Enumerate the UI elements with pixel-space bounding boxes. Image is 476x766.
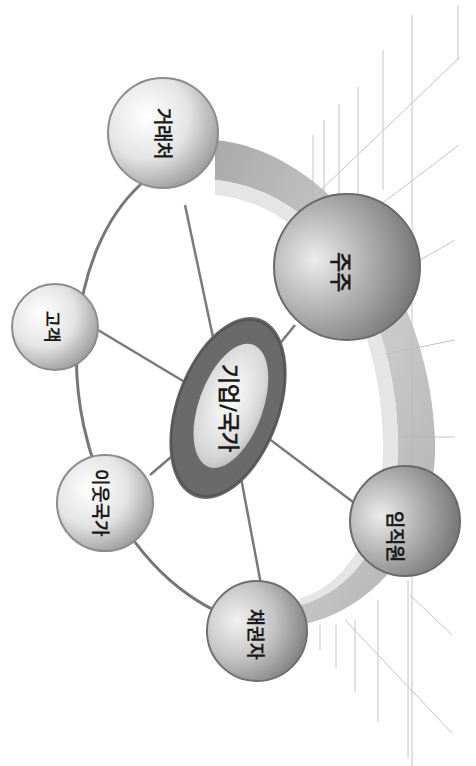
node-customer-label: 고객 xyxy=(42,311,62,343)
node-partner[interactable]: 거래처 xyxy=(108,78,218,188)
diagram-stage: 기업/국가 거래처 고객 이웃국가 채권자 임직원 주주 xyxy=(0,0,476,766)
node-partner-label: 거래처 xyxy=(152,108,174,159)
node-shareholder-label: 주주 xyxy=(328,252,353,292)
node-creditor-label: 채권자 xyxy=(245,609,266,660)
node-neighbor-country[interactable]: 이웃국가 xyxy=(57,455,153,551)
node-creditor[interactable]: 채권자 xyxy=(207,581,307,681)
node-shareholder[interactable]: 주주 xyxy=(274,194,420,340)
stakeholder-diagram: 기업/국가 거래처 고객 이웃국가 채권자 임직원 주주 xyxy=(0,0,476,766)
center-hub-label: 기업/국가 xyxy=(216,364,241,452)
node-employee-label: 임직원 xyxy=(384,511,406,562)
node-customer[interactable]: 고객 xyxy=(12,284,98,370)
node-neighbor-country-label: 이웃국가 xyxy=(90,469,111,537)
node-employee[interactable]: 임직원 xyxy=(350,466,460,576)
